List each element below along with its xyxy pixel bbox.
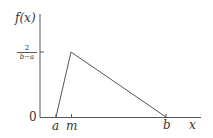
x-tick-label-m: m	[66, 120, 77, 132]
pdf-triangle	[56, 52, 166, 117]
x-tick-label-b: b	[163, 119, 171, 131]
y-tick-label-peak: 2 b−a	[17, 44, 37, 61]
x-axis-label: x	[189, 119, 196, 131]
y-axis-label: f(x)	[15, 12, 36, 24]
fraction-denominator: b−a	[17, 53, 37, 61]
fraction-numerator: 2	[17, 44, 37, 53]
y-tick-label-zero: 0	[29, 111, 37, 123]
x-tick-label-a: a	[52, 120, 59, 132]
